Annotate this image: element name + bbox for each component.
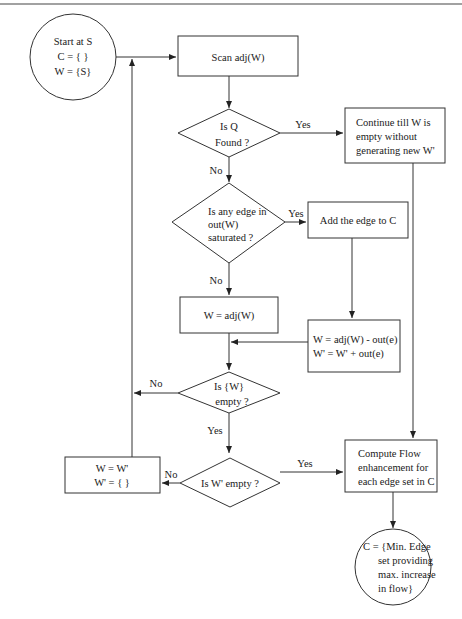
compute-line-2: enhancement for <box>358 462 429 473</box>
node-continue: Continue till W is empty without generat… <box>345 108 445 163</box>
start-line-3: W = {S} <box>55 66 92 77</box>
node-w-adj: W = adj(W) <box>180 297 278 333</box>
edge-saturated-line-1: Is any edge in <box>208 206 267 217</box>
compute-line-1: Compute Flow <box>358 448 421 459</box>
node-swap: W = W' W' = { } <box>65 457 160 493</box>
label-q-found-yes: Yes <box>295 119 310 130</box>
continue-line-1: Continue till W is <box>356 117 431 128</box>
continue-line-2: empty without <box>356 131 417 142</box>
compute-line-3: each edge set in C <box>358 476 434 487</box>
node-scan: Scan adj(W) <box>178 36 298 76</box>
start-line-1: Start at S <box>54 36 93 47</box>
end-line-4: in flow} <box>378 583 413 594</box>
node-add-edge: Add the edge to C <box>308 202 408 238</box>
w-update-box-shape <box>308 320 400 372</box>
node-q-found: Is Q Found ? <box>178 109 280 157</box>
label-saturated-no: No <box>210 275 223 286</box>
swap-line-1: W = W' <box>96 463 129 474</box>
wprime-empty-label: Is W' empty ? <box>201 478 259 489</box>
label-q-found-no: No <box>210 165 223 176</box>
end-line-3: max. increase <box>378 569 436 580</box>
edge-saturated-line-3: saturated ? <box>208 232 254 243</box>
flowchart-canvas: Start at S C = { } W = {S} Scan adj(W) I… <box>0 0 462 619</box>
label-wprime-no: No <box>165 469 178 480</box>
q-found-diamond-shape <box>178 109 280 157</box>
w-empty-line-1: Is {W} <box>214 381 244 392</box>
q-found-line-2: Found ? <box>215 137 249 148</box>
continue-line-3: generating new W' <box>356 145 435 156</box>
start-line-2: C = { } <box>58 51 89 62</box>
node-start: Start at S C = { } W = {S} <box>30 14 116 100</box>
scan-label: Scan adj(W) <box>212 52 265 64</box>
end-line-1: C = {Min. Edge <box>363 541 431 552</box>
q-found-line-1: Is Q <box>220 121 238 132</box>
w-update-line-2: W' = W' + out(e) <box>313 348 384 360</box>
w-empty-line-2: empty ? <box>215 396 249 407</box>
label-wprime-yes: Yes <box>297 458 312 469</box>
node-w-empty: Is {W} empty ? <box>178 372 280 413</box>
label-saturated-yes: Yes <box>288 208 303 219</box>
edge-saturated-line-2: out(W) <box>208 219 239 231</box>
node-compute: Compute Flow enhancement for each edge s… <box>345 440 437 492</box>
node-end: C = {Min. Edge set providing max. increa… <box>355 529 436 605</box>
w-update-line-1: W = adj(W) - out(e) <box>313 334 398 346</box>
node-w-update: W = adj(W) - out(e) W' = W' + out(e) <box>308 320 400 372</box>
add-edge-label: Add the edge to C <box>320 215 396 226</box>
node-wprime-empty: Is W' empty ? <box>180 458 280 507</box>
label-w-empty-no: No <box>150 378 163 389</box>
node-edge-saturated: Is any edge in out(W) saturated ? <box>172 183 285 263</box>
label-w-empty-yes: Yes <box>207 425 222 436</box>
end-line-2: set providing <box>378 555 434 566</box>
swap-line-2: W' = { } <box>94 477 130 488</box>
w-adj-label: W = adj(W) <box>204 310 255 322</box>
